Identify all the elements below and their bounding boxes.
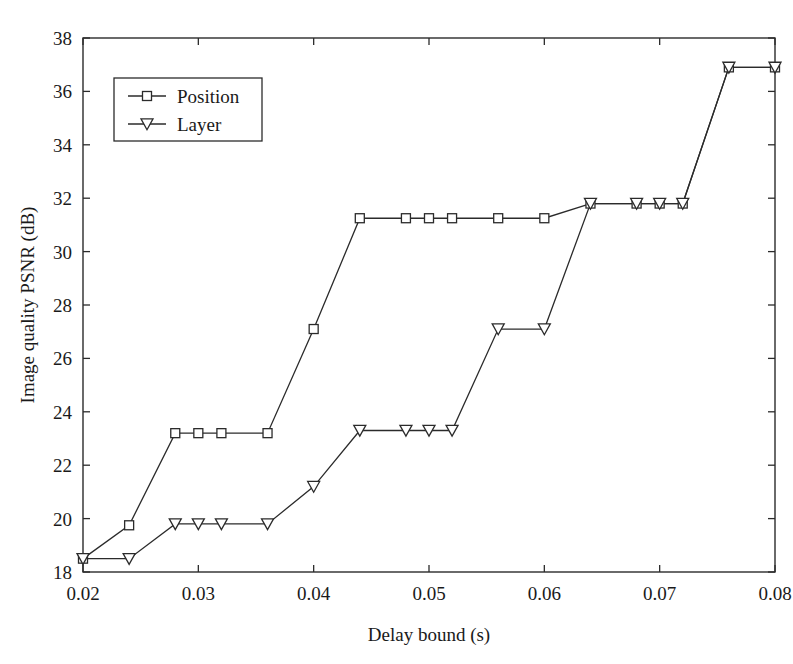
chart-legend[interactable]: PositionLayer (114, 78, 262, 141)
data-point-marker-position (355, 214, 364, 223)
data-point-marker-position (425, 214, 434, 223)
y-tick-label: 20 (53, 509, 72, 530)
psnr-line-chart: 18202224262830323436380.020.030.040.050.… (0, 0, 793, 664)
x-tick-label: 0.07 (643, 583, 676, 604)
y-tick-label: 28 (53, 295, 72, 316)
data-point-marker-position (401, 214, 410, 223)
x-tick-label: 0.02 (66, 583, 99, 604)
legend-label-position[interactable]: Position (177, 86, 240, 107)
data-point-marker-position (263, 429, 272, 438)
data-point-marker-position (217, 429, 226, 438)
data-point-marker-position (194, 429, 203, 438)
data-point-marker-position (309, 325, 318, 334)
data-point-marker-position (171, 429, 180, 438)
chart-axis-titles: Delay bound (s)Image quality PSNR (dB) (17, 207, 490, 646)
data-point-marker-position (448, 214, 457, 223)
y-tick-label: 30 (53, 242, 72, 263)
legend-label-layer[interactable]: Layer (177, 114, 222, 135)
data-point-marker-position (125, 521, 134, 530)
x-tick-label: 0.06 (528, 583, 561, 604)
y-tick-label: 18 (53, 562, 72, 583)
y-tick-label: 34 (53, 135, 73, 156)
y-tick-label: 22 (53, 455, 72, 476)
x-axis-title: Delay bound (s) (368, 624, 490, 646)
x-tick-label: 0.03 (182, 583, 215, 604)
x-tick-label: 0.05 (412, 583, 445, 604)
y-tick-label: 24 (53, 402, 73, 423)
y-tick-label: 38 (53, 28, 72, 49)
data-point-marker-position (540, 214, 549, 223)
y-tick-label: 36 (53, 81, 72, 102)
y-axis-title: Image quality PSNR (dB) (17, 207, 39, 404)
x-tick-label: 0.04 (297, 583, 331, 604)
y-tick-label: 32 (53, 188, 72, 209)
x-tick-label: 0.08 (758, 583, 791, 604)
y-tick-label: 26 (53, 348, 72, 369)
data-point-marker-position (494, 214, 503, 223)
legend-marker-position (143, 92, 152, 101)
chart-figure: 18202224262830323436380.020.030.040.050.… (0, 0, 793, 664)
